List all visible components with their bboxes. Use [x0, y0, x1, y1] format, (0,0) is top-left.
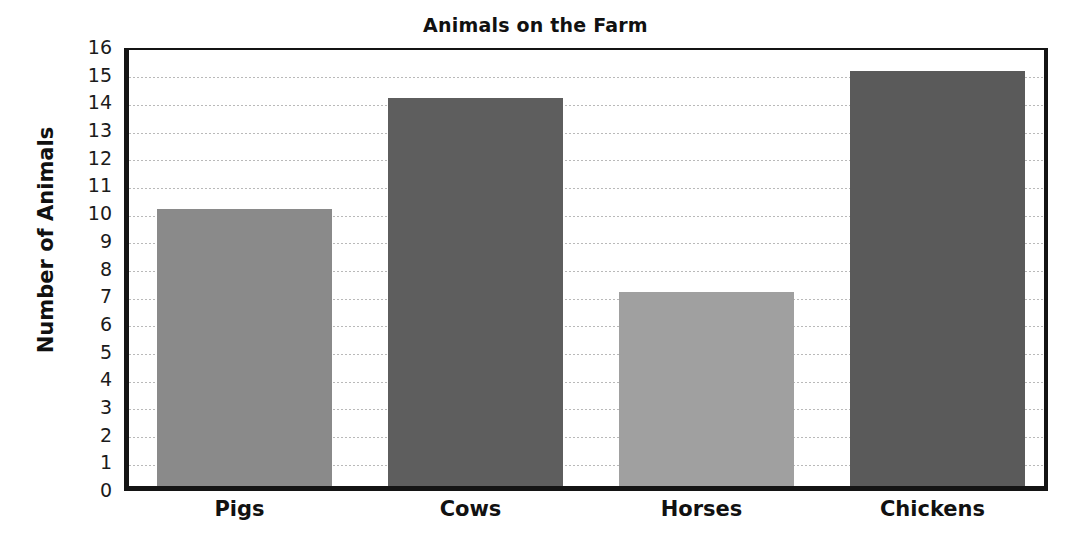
- x-axis-tick-label: Horses: [586, 497, 817, 521]
- y-axis-tick-label: 1: [66, 453, 112, 472]
- x-axis-tick-labels: PigsCowsHorsesChickens: [124, 494, 1048, 534]
- y-axis-tick-label: 9: [66, 232, 112, 251]
- x-axis-tick-label: Pigs: [124, 497, 355, 521]
- y-axis-tick-label: 11: [66, 176, 112, 195]
- y-axis-tick-label: 15: [66, 66, 112, 85]
- y-axis-tick-label: 8: [66, 260, 112, 279]
- y-axis-tick-label: 10: [66, 204, 112, 223]
- y-axis-tick-label: 3: [66, 398, 112, 417]
- x-axis-tick-label: Cows: [355, 497, 586, 521]
- y-axis-tick-label: 4: [66, 370, 112, 389]
- y-axis-tick-label: 2: [66, 426, 112, 445]
- chart-title: Animals on the Farm: [0, 14, 1071, 36]
- y-axis-tick-label: 0: [66, 481, 112, 500]
- y-axis-tick-label: 12: [66, 149, 112, 168]
- bar: [157, 209, 331, 486]
- bar: [850, 71, 1024, 486]
- y-axis-tick-label: 6: [66, 315, 112, 334]
- y-axis-tick-label: 5: [66, 343, 112, 362]
- bar: [619, 292, 793, 486]
- y-axis-tick-label: 16: [66, 38, 112, 57]
- y-axis-tick-label: 13: [66, 121, 112, 140]
- y-axis-tick-labels: 161514131211109876543210: [58, 48, 112, 491]
- y-axis-title: Number of Animals: [34, 90, 58, 390]
- x-axis-tick-label: Chickens: [817, 497, 1048, 521]
- bar-chart: Animals on the Farm Number of Animals 16…: [0, 0, 1071, 544]
- bar: [388, 98, 562, 486]
- y-axis-tick-label: 7: [66, 287, 112, 306]
- plot-area: [124, 48, 1048, 491]
- y-axis-tick-label: 14: [66, 93, 112, 112]
